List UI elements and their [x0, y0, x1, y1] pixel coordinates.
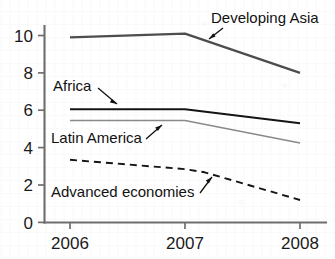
- y-axis: [38, 26, 45, 223]
- y-tick-label-2: 2: [24, 176, 33, 195]
- y-tick-label-0: 0: [24, 214, 33, 233]
- line-chart-canvas: 10 8 6 4 2 0 2006 2007 2008 Developing A…: [0, 0, 335, 259]
- chart-figure: 10 8 6 4 2 0 2006 2007 2008 Developing A…: [0, 0, 335, 259]
- leader-arrowhead-advanced-economies: [206, 177, 212, 183]
- y-tick-label-8: 8: [24, 64, 33, 83]
- x-tick-label-2007: 2007: [166, 234, 204, 253]
- annotation-advanced-economies: Advanced economies: [51, 177, 212, 200]
- series-label-developing-asia: Developing Asia: [211, 9, 319, 26]
- y-tick-label-6: 6: [24, 101, 33, 120]
- y-tick-label-10: 10: [14, 27, 33, 46]
- series-label-latin-america: Latin America: [51, 129, 143, 146]
- annotation-latin-america: Latin America: [51, 125, 162, 146]
- y-tick-label-4: 4: [24, 139, 33, 158]
- x-axis: [45, 223, 327, 230]
- x-tick-label-2006: 2006: [51, 234, 89, 253]
- series-label-africa: Africa: [53, 77, 92, 94]
- series-line-developing-asia: [70, 34, 300, 73]
- series-group: [70, 34, 300, 200]
- annotation-africa: Africa: [53, 77, 117, 104]
- annotation-developing-asia: Developing Asia: [209, 9, 319, 39]
- series-label-advanced-economies: Advanced economies: [51, 183, 194, 200]
- x-tick-label-2008: 2008: [281, 234, 319, 253]
